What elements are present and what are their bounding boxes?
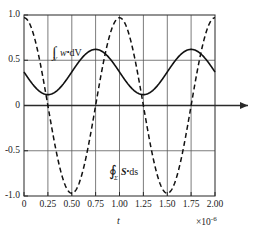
dot-operator-icon-2: • xyxy=(126,167,129,176)
multiplier-base: ×10 xyxy=(196,217,211,227)
y-tick-label-0: 0 xyxy=(0,101,20,111)
y-tick-label--0.5: -0.5 xyxy=(0,146,20,156)
x-tick-label-0: 0 xyxy=(22,200,27,210)
integrand-w: w xyxy=(60,47,67,58)
y-tick-label--1.0: -1.0 xyxy=(0,191,20,201)
x-tick-label-1.50: 1.50 xyxy=(159,200,176,210)
dashed-curve-annotation: ∮ΣS•ds xyxy=(109,163,138,180)
contour-integral-subscript: Σ xyxy=(114,174,118,181)
x-axis-label: t xyxy=(117,215,120,226)
differential-dV: dV xyxy=(70,47,82,58)
x-tick-label-0.50: 0.50 xyxy=(63,200,80,210)
dot-operator-icon: • xyxy=(67,48,70,57)
x-axis-arrowhead xyxy=(240,102,248,109)
x-tick-label-1.25: 1.25 xyxy=(135,200,152,210)
y-tick-label-1.0: 1.0 xyxy=(0,10,20,20)
integral-subscript: V xyxy=(53,55,57,62)
chart-figure: 1.0 0.5 0 -0.5 -1.0 0 0.25 0.50 0.75 1.0… xyxy=(0,0,263,241)
x-tick-label-2.00: 2.00 xyxy=(207,200,224,210)
y-tick-label-0.5: 0.5 xyxy=(0,56,20,66)
x-tick-label-0.75: 0.75 xyxy=(87,200,104,210)
x-tick-label-0.25: 0.25 xyxy=(40,200,57,210)
solid-curve-annotation: ∫Vw•dV xyxy=(52,44,82,61)
x-axis-multiplier: ×10-6 xyxy=(196,215,217,227)
differential-ds: ds xyxy=(129,166,138,177)
multiplier-exponent: -6 xyxy=(211,215,217,223)
x-tick-label-1.00: 1.00 xyxy=(111,200,128,210)
x-tick-label-1.75: 1.75 xyxy=(183,200,200,210)
